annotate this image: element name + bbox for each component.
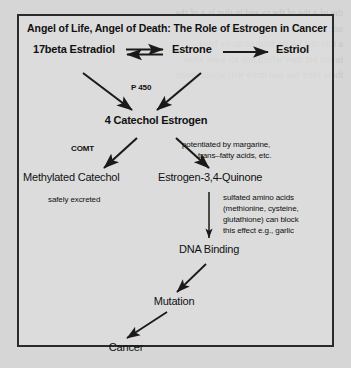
node-dna-binding: DNA Binding <box>179 243 239 255</box>
annotation-comt: COMT <box>71 144 94 153</box>
node-methylated-catechol: Methylated Catechol <box>23 171 119 183</box>
arrow-mutation-cancer <box>127 312 167 338</box>
node-mutation: Mutation <box>154 295 195 307</box>
annotation-potentiated-line1: potentiated by margarine, <box>182 140 270 149</box>
annotation-sulfated-line1: sulfated amino acids <box>223 193 294 202</box>
annotation-potentiated-line2: trans–fatty acids, etc. <box>198 151 271 160</box>
arrow-estradiol-estrone-equilibrium <box>126 50 163 55</box>
node-estriol: Estriol <box>276 43 309 55</box>
arrow-estradiol-catechol <box>83 73 132 110</box>
annotation-sulfated-line3: glutathione) can block <box>223 215 299 224</box>
node-estrogen-3-4-quinone: Estrogen-3,4-Quinone <box>158 171 262 183</box>
node-estrone: Estrone <box>172 43 212 55</box>
arrow-dna-binding-mutation <box>177 264 206 292</box>
arrow-estrone-catechol <box>157 73 201 110</box>
diagram-title: Angel of Life, Angel of Death: The Role … <box>27 22 327 34</box>
node-17beta-estradiol: 17beta Estradiol <box>33 43 115 55</box>
arrow-catechol-methylated <box>104 138 137 168</box>
annotation-p450: P 450 <box>131 83 151 92</box>
diagram-canvas: Angel of Life, Angel of Death: The Role … <box>19 16 332 345</box>
annotation-safely-excreted: safely excreted <box>48 195 100 204</box>
diagram-frame: Angel of Life, Angel of Death: The Role … <box>17 14 334 347</box>
node-cancer: Cancer <box>109 341 143 353</box>
annotation-sulfated-line2: (methionine, cysteine, <box>223 204 299 213</box>
annotation-sulfated-line4: this effect e.g., garlic <box>223 226 294 235</box>
node-4-catechol-estrogen: 4 Catechol Estrogen <box>105 114 208 126</box>
